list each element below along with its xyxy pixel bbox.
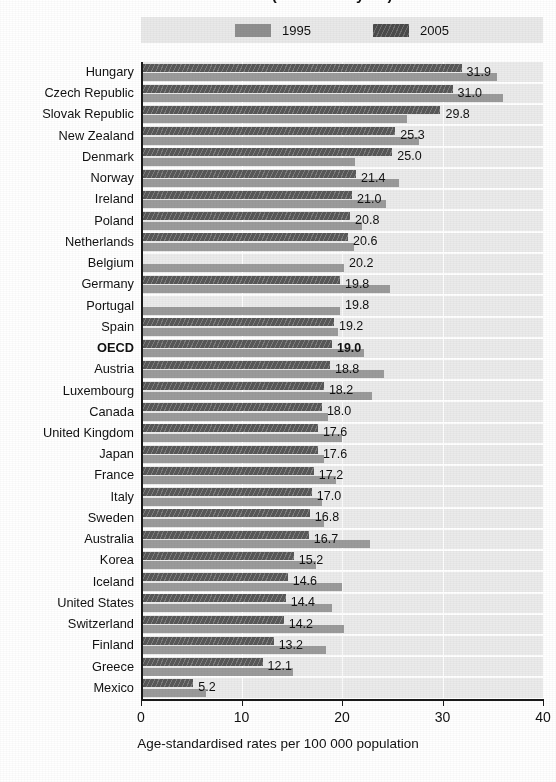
bar-2005 — [141, 340, 332, 348]
bar-2005 — [141, 318, 334, 326]
bar-value-label: 13.2 — [279, 638, 303, 652]
bar-1995 — [141, 689, 206, 697]
bar-value-label: 19.8 — [345, 298, 369, 312]
gridline — [543, 62, 544, 699]
bar-row: 25.0 — [141, 147, 543, 169]
chart-root: 1995 and 2005 (or nearest year) 1995 200… — [0, 0, 556, 782]
bar-1995 — [141, 328, 338, 336]
bar-row: 17.6 — [141, 423, 543, 445]
bar-value-label: 19.2 — [339, 319, 363, 333]
bar-value-label: 20.6 — [353, 234, 377, 248]
x-tick-label: 40 — [535, 709, 551, 725]
x-tick-mark — [242, 699, 243, 706]
category-label: Portugal — [0, 298, 138, 313]
bar-1995 — [141, 243, 354, 251]
category-label: Netherlands — [0, 234, 138, 249]
bar-2005 — [141, 424, 318, 432]
bar-row: 5.2 — [141, 678, 543, 700]
bar-row: 18.2 — [141, 381, 543, 403]
bar-row: 18.0 — [141, 402, 543, 424]
bar-row: 16.8 — [141, 508, 543, 530]
bar-1995 — [141, 158, 355, 166]
bar-row: 21.4 — [141, 168, 543, 190]
x-axis-title: Age-standardised rates per 100 000 popul… — [0, 736, 556, 751]
bar-1995 — [141, 137, 419, 145]
bar-value-label: 16.8 — [315, 510, 339, 524]
bar-value-label: 20.2 — [349, 256, 373, 270]
category-label: Mexico — [0, 680, 138, 695]
bar-2005 — [141, 127, 395, 135]
bar-row: 29.8 — [141, 104, 543, 126]
category-label: Hungary — [0, 64, 138, 79]
category-labels: HungaryCzech RepublicSlovak RepublicNew … — [0, 62, 138, 699]
bar-1995 — [141, 476, 336, 484]
bar-value-label: 17.6 — [323, 447, 347, 461]
bar-2005 — [141, 403, 322, 411]
bar-2005 — [141, 64, 462, 72]
bar-1995 — [141, 349, 364, 357]
category-label: Luxembourg — [0, 383, 138, 398]
bar-value-label: 14.2 — [289, 617, 313, 631]
legend-swatch-2005 — [373, 24, 409, 37]
bar-2005 — [141, 106, 440, 114]
legend-item-1995: 1995 — [235, 23, 311, 38]
category-label: New Zealand — [0, 128, 138, 143]
bar-value-label: 18.2 — [329, 383, 353, 397]
category-label: Canada — [0, 404, 138, 419]
bar-2005 — [141, 594, 286, 602]
category-label: United Kingdom — [0, 425, 138, 440]
category-label: Spain — [0, 319, 138, 334]
bar-value-label: 5.2 — [198, 680, 215, 694]
category-label: Finland — [0, 637, 138, 652]
category-label: Austria — [0, 361, 138, 376]
category-label: Germany — [0, 276, 138, 291]
bar-value-label: 14.6 — [293, 574, 317, 588]
category-label: Korea — [0, 552, 138, 567]
category-label: Czech Republic — [0, 85, 138, 100]
bar-row: 17.2 — [141, 465, 543, 487]
bar-value-label: 16.7 — [314, 532, 338, 546]
bar-1995 — [141, 455, 324, 463]
bar-2005 — [141, 361, 330, 369]
bar-row: 20.6 — [141, 232, 543, 254]
bar-2005 — [141, 170, 356, 178]
bar-value-label: 19.0 — [337, 341, 361, 355]
x-tick-mark — [443, 699, 444, 706]
category-label: Iceland — [0, 574, 138, 589]
bar-row: 14.4 — [141, 593, 543, 615]
bar-2005 — [141, 616, 284, 624]
bar-1995 — [141, 498, 322, 506]
bar-1995 — [141, 94, 503, 102]
bar-value-label: 17.2 — [319, 468, 343, 482]
bar-row: 19.8 — [141, 274, 543, 296]
bar-1995 — [141, 434, 342, 442]
bar-1995 — [141, 625, 344, 633]
bar-value-label: 31.9 — [467, 65, 491, 79]
bar-value-label: 21.4 — [361, 171, 385, 185]
category-label: Belgium — [0, 255, 138, 270]
chart-title: 1995 and 2005 (or nearest year) — [0, 0, 556, 4]
bar-row: 17.0 — [141, 487, 543, 509]
category-label: United States — [0, 595, 138, 610]
y-axis-line — [141, 62, 143, 700]
bar-row: 14.6 — [141, 572, 543, 594]
bar-value-label: 18.0 — [327, 404, 351, 418]
bar-row: 16.7 — [141, 529, 543, 551]
bar-row: 20.2 — [141, 253, 543, 275]
category-label: Italy — [0, 489, 138, 504]
bar-value-label: 17.6 — [323, 425, 347, 439]
bar-2005 — [141, 509, 310, 517]
category-label: Poland — [0, 213, 138, 228]
bar-2005 — [141, 637, 274, 645]
bar-row: 21.0 — [141, 189, 543, 211]
bar-2005 — [141, 467, 314, 475]
category-label: Greece — [0, 659, 138, 674]
bar-row: 12.1 — [141, 657, 543, 679]
bar-2005 — [141, 212, 350, 220]
x-tick-label: 10 — [234, 709, 250, 725]
bar-1995 — [141, 561, 316, 569]
x-tick-label: 20 — [334, 709, 350, 725]
category-label: Sweden — [0, 510, 138, 525]
bar-value-label: 31.0 — [458, 86, 482, 100]
bar-2005 — [141, 552, 294, 560]
